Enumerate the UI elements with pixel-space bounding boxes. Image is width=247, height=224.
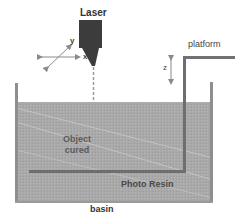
sla-diagram: Laser platform z x y Object cured Photo … xyxy=(0,0,247,224)
diagram-canvas xyxy=(0,0,247,224)
x-axis-label: x xyxy=(83,53,87,61)
laser-label: Laser xyxy=(80,8,107,18)
y-axis-label: y xyxy=(70,37,74,45)
photo-resin-label: Photo Resin xyxy=(121,180,174,189)
basin-label: basin xyxy=(90,205,114,214)
object-cured-label: Object cured xyxy=(62,134,92,156)
object-label-line1: Object xyxy=(63,134,91,144)
platform-label: platform xyxy=(188,40,221,49)
z-axis-label: z xyxy=(163,64,167,72)
object-label-line2: cured xyxy=(65,145,90,155)
xy-axes-icon xyxy=(40,46,78,68)
